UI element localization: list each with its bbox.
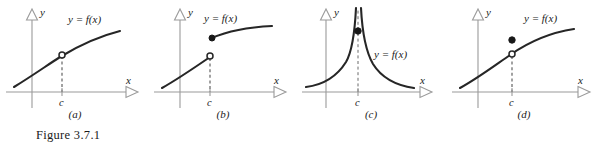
x-axis-label: x bbox=[125, 74, 131, 86]
figure-3-7-1: y x c y = f(x) (a) y x bbox=[0, 0, 602, 152]
filled-dot-marker bbox=[355, 28, 361, 34]
open-circle-marker bbox=[509, 51, 515, 57]
curve-label: y = f(x) bbox=[203, 12, 237, 25]
x-axis-label: x bbox=[419, 74, 425, 86]
x-axis-arrowhead bbox=[274, 87, 286, 98]
open-circle-marker bbox=[207, 53, 213, 59]
c-tick-label: c bbox=[59, 97, 64, 108]
panel-b: y x c y = f(x) (b) bbox=[148, 0, 298, 132]
c-tick-label: c bbox=[355, 97, 360, 108]
c-tick-label: c bbox=[207, 97, 212, 108]
curve-label: y = f(x) bbox=[523, 12, 557, 25]
filled-dot-marker bbox=[509, 37, 515, 43]
y-axis-arrowhead bbox=[175, 9, 186, 20]
y-axis-label: y bbox=[39, 6, 45, 18]
panel-a-label: (a) bbox=[0, 108, 150, 120]
function-curve bbox=[14, 31, 120, 87]
x-axis-arrowhead bbox=[420, 87, 432, 98]
curve-label: y = f(x) bbox=[67, 13, 101, 26]
y-axis-arrowhead bbox=[27, 9, 38, 20]
c-tick-label: c bbox=[509, 97, 514, 108]
y-axis-arrowhead bbox=[473, 9, 484, 20]
panel-c-label: (c) bbox=[296, 108, 446, 120]
curve-label: y = f(x) bbox=[373, 48, 407, 61]
x-axis-label: x bbox=[577, 74, 583, 86]
figure-caption: Figure 3.7.1 bbox=[36, 128, 100, 143]
y-axis-label: y bbox=[485, 6, 491, 18]
x-axis-arrowhead bbox=[578, 87, 590, 98]
y-axis-label: y bbox=[333, 6, 339, 18]
panel-a: y x c y = f(x) (a) bbox=[0, 0, 150, 132]
function-curve-upper bbox=[212, 26, 272, 38]
panel-d: y x c y = f(x) (d) bbox=[446, 0, 602, 132]
open-circle-marker bbox=[59, 52, 65, 58]
function-curve bbox=[460, 29, 574, 88]
y-axis-arrowhead bbox=[321, 9, 332, 20]
function-curve-lower bbox=[162, 57, 210, 88]
filled-dot-marker bbox=[209, 35, 215, 41]
x-axis-arrowhead bbox=[126, 87, 138, 98]
x-axis-label: x bbox=[273, 74, 279, 86]
panel-d-label: (d) bbox=[446, 108, 602, 120]
panel-c: y x c y = f(x) (c) bbox=[296, 0, 446, 132]
panel-b-label: (b) bbox=[148, 108, 298, 120]
y-axis-label: y bbox=[187, 6, 193, 18]
